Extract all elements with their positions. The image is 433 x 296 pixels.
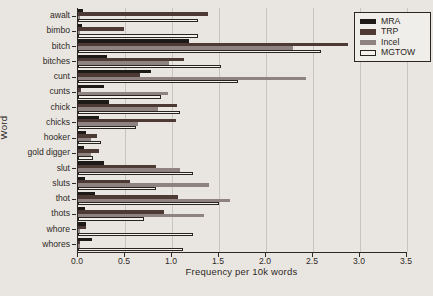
bar-mgtow-thots — [78, 217, 144, 220]
y-tick-label: hooker — [0, 133, 70, 142]
y-tick-label: chick — [0, 103, 70, 112]
y-tick-mark — [72, 244, 76, 245]
legend-swatch-icon — [360, 50, 376, 56]
bar-mgtow-gold-digger — [78, 156, 93, 159]
bar-chart: Word awaltbimbobitchbitchescuntcuntschic… — [0, 0, 433, 296]
y-tick-label: bitches — [0, 57, 70, 66]
y-tick-label: whores — [0, 240, 70, 249]
bar-mgtow-sluts — [78, 187, 156, 190]
x-tick-label: 1.5 — [206, 256, 230, 266]
y-tick-mark — [72, 61, 76, 62]
x-tick-label: 3.0 — [347, 256, 371, 266]
y-tick-mark — [72, 229, 76, 230]
bar-mra-cunts — [78, 85, 104, 88]
bar-mgtow-thot — [78, 202, 219, 205]
y-tick-label: sluts — [0, 179, 70, 188]
bar-trp-bimbo — [78, 27, 124, 30]
y-tick-mark — [72, 77, 76, 78]
bar-mgtow-awalt — [78, 19, 198, 22]
legend-item-trp: TRP — [360, 27, 426, 38]
bar-mgtow-chick — [78, 111, 180, 114]
bar-mgtow-slut — [78, 172, 193, 175]
bar-mgtow-whore — [78, 233, 193, 236]
y-tick-label: slut — [0, 164, 70, 173]
y-tick-mark — [72, 183, 76, 184]
x-tick-label: 0.0 — [65, 256, 89, 266]
bar-mgtow-bitch — [78, 50, 321, 53]
x-tick-label: 1.0 — [159, 256, 183, 266]
bar-mgtow-chicks — [78, 126, 136, 129]
y-tick-label: cunt — [0, 72, 70, 81]
y-tick-mark — [72, 138, 76, 139]
legend-swatch-icon — [360, 19, 376, 25]
legend-label: MGTOW — [381, 48, 415, 57]
y-tick-mark — [72, 92, 76, 93]
y-tick-mark — [72, 199, 76, 200]
bar-mra-whores — [78, 238, 92, 241]
y-tick-mark — [72, 31, 76, 32]
bar-mgtow-whores — [78, 248, 183, 251]
legend-item-mgtow: MGTOW — [360, 48, 426, 59]
y-tick-mark — [72, 107, 76, 108]
x-axis-label: Frequency per 10k words — [77, 266, 406, 277]
x-tick-label: 2.5 — [300, 256, 324, 266]
bar-mgtow-cunt — [78, 80, 238, 83]
y-tick-label: bitch — [0, 42, 70, 51]
bar-mgtow-bimbo — [78, 34, 198, 37]
y-tick-mark — [72, 16, 76, 17]
legend-item-mra: MRA — [360, 16, 426, 27]
bar-mgtow-bitches — [78, 65, 221, 68]
legend-label: Incel — [381, 38, 399, 47]
y-tick-label: whore — [0, 225, 70, 234]
x-tick-label: 3.5 — [394, 256, 418, 266]
y-tick-label: cunts — [0, 87, 70, 96]
y-tick-label: awalt — [0, 11, 70, 20]
x-tick-label: 2.0 — [253, 256, 277, 266]
legend-label: TRP — [381, 27, 398, 36]
y-tick-mark — [72, 153, 76, 154]
bar-trp-awalt — [78, 12, 208, 15]
y-tick-mark — [72, 122, 76, 123]
legend-swatch-icon — [360, 29, 376, 35]
bar-mgtow-cunts — [78, 95, 161, 98]
y-tick-mark — [72, 46, 76, 47]
y-tick-label: chicks — [0, 118, 70, 127]
y-tick-mark — [72, 168, 76, 169]
y-tick-label: thots — [0, 209, 70, 218]
legend-swatch-icon — [360, 40, 376, 46]
x-tick-label: 0.5 — [112, 256, 136, 266]
y-tick-label: gold digger — [0, 148, 70, 157]
legend: MRATRPIncelMGTOW — [354, 12, 431, 62]
legend-label: MRA — [381, 17, 400, 26]
bar-mgtow-hooker — [78, 141, 101, 144]
y-tick-label: thot — [0, 194, 70, 203]
y-tick-mark — [72, 214, 76, 215]
legend-item-incel: Incel — [360, 37, 426, 48]
y-tick-label: bimbo — [0, 26, 70, 35]
